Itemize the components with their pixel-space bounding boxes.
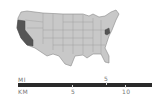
us-states-svg: [13, 8, 123, 68]
km-label: KM: [18, 89, 28, 95]
us-map: [13, 8, 123, 68]
miles-tick: [106, 82, 107, 85]
scale-bar: MI 5 KM 5 10: [18, 77, 152, 96]
km-tick-label-5: 5: [71, 89, 75, 95]
km-tick-label-10: 10: [122, 89, 131, 95]
scale-bar-line: [18, 83, 152, 87]
